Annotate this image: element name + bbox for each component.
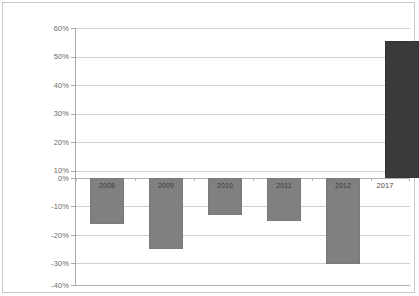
x-tick-mark [409,178,410,181]
x-tick-mark [371,178,372,181]
bar-2010[interactable]: 2010 [208,178,242,215]
x-tick-mark [253,178,254,181]
y-tick-mark [71,85,75,86]
bar-2009[interactable]: 2009 [149,178,183,249]
y-tick-mark [71,142,75,143]
y-tick-label: -40% [3,282,69,290]
bar-label-2010: 2010 [209,182,241,189]
bar-2008[interactable]: 2008 [90,178,124,224]
bar-2017[interactable] [385,41,419,178]
y-tick-label: 30% [3,110,69,118]
y-tick-mark [71,57,75,58]
x-tick-mark [194,178,195,181]
bar-2012[interactable]: 2012 [326,178,360,264]
y-tick-label: 20% [3,139,69,147]
y-tick-mark [71,171,75,172]
x-tick-mark [135,178,136,181]
y-tick-label: 50% [3,53,69,61]
gridline-30 [76,114,410,115]
y-tick-mark [71,235,75,236]
y-tick-label: -10% [3,203,69,211]
bar-label-2009: 2009 [150,182,182,189]
y-tick-mark [71,285,75,286]
bar-2011[interactable]: 2011 [267,178,301,221]
gridline-40 [76,85,410,86]
x-tick-mark [76,178,77,181]
plot-area: 2008 2009 2010 2011 2012 [76,28,410,285]
y-tick-label: 0% [3,175,69,183]
x-tick-mark [312,178,313,181]
y-tick-label: 60% [3,25,69,33]
y-tick-mark [71,206,75,207]
bar-label-2008: 2008 [91,182,123,189]
gridline-10 [76,171,410,172]
y-tick-label: -20% [3,232,69,240]
y-axis-labels: 60% 50% 40% 30% 20% 10% 0% -10% -20% -30… [0,0,69,296]
y-tick-mark [71,263,75,264]
bar-label-2012: 2012 [327,182,359,189]
gridline-20 [76,142,410,143]
y-tick-mark [71,178,75,179]
y-tick-label: 40% [3,82,69,90]
gridline-neg40 [76,285,410,286]
y-tick-mark [71,28,75,29]
bar-label-2011: 2011 [268,182,300,189]
gridline-50 [76,57,410,58]
y-tick-label: -30% [3,260,69,268]
gridline-60 [76,28,410,29]
y-tick-mark [71,114,75,115]
bar-label-2017: 2017 [368,182,402,190]
